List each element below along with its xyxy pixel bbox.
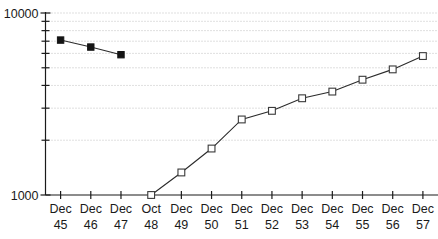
- axes-group: [46, 12, 438, 195]
- x-axis-label-month: Dec: [382, 202, 404, 216]
- data-point-marker: [88, 44, 94, 50]
- x-axis-label-month: Dec: [110, 202, 132, 216]
- chart-canvas: 100001000 Dec45Dec46Dec47Oct48Dec49Dec50…: [0, 0, 438, 239]
- x-axis-label-month: Dec: [200, 202, 222, 216]
- x-axis-label-year: 54: [325, 218, 339, 232]
- x-axis-label-month: Dec: [80, 202, 102, 216]
- data-point-marker: [238, 116, 245, 123]
- data-point-marker: [148, 192, 155, 199]
- data-point-marker: [299, 95, 306, 102]
- data-point-marker: [359, 76, 366, 83]
- x-axis-label-year: 53: [295, 218, 309, 232]
- x-axis-label-year: 47: [114, 218, 128, 232]
- series-line-series-open: [151, 56, 423, 195]
- x-axis-label-month: Dec: [170, 202, 192, 216]
- data-point-marker: [389, 66, 396, 73]
- data-point-marker: [57, 37, 63, 43]
- x-axis-label-month: Dec: [231, 202, 253, 216]
- x-axis-labels-group: Dec45Dec46Dec47Oct48Dec49Dec50Dec51Dec52…: [49, 202, 434, 232]
- x-axis-label-month: Dec: [321, 202, 343, 216]
- x-axis-label-year: 49: [174, 218, 188, 232]
- x-axis-label-year: 56: [386, 218, 400, 232]
- x-axis-label-year: 52: [265, 218, 279, 232]
- x-axis-label-year: 55: [356, 218, 370, 232]
- log-line-chart: 100001000 Dec45Dec46Dec47Oct48Dec49Dec50…: [0, 0, 438, 239]
- x-axis-label-year: 45: [54, 218, 68, 232]
- x-axis-label-year: 51: [235, 218, 249, 232]
- x-axis-label-year: 48: [144, 218, 158, 232]
- data-point-marker: [118, 52, 124, 58]
- x-axis-label-year: 46: [84, 218, 98, 232]
- x-axis-label-month: Dec: [261, 202, 283, 216]
- x-axis-label-year: 57: [416, 218, 430, 232]
- data-point-marker: [269, 107, 276, 114]
- x-axis-label-month: Oct: [141, 202, 161, 216]
- data-point-marker: [178, 169, 185, 176]
- data-point-marker: [329, 88, 336, 95]
- y-axis-label-max: 10000: [4, 7, 39, 21]
- data-point-marker: [208, 145, 215, 152]
- y-axis-label-min: 1000: [11, 189, 39, 203]
- data-series-group: [57, 37, 426, 199]
- x-axis-label-month: Dec: [351, 202, 373, 216]
- x-axis-label-month: Dec: [291, 202, 313, 216]
- x-axis-label-month: Dec: [412, 202, 434, 216]
- x-axis-label-year: 50: [205, 218, 219, 232]
- data-point-marker: [420, 53, 427, 60]
- x-axis-label-month: Dec: [49, 202, 71, 216]
- y-axis-labels-group: 100001000: [4, 7, 39, 203]
